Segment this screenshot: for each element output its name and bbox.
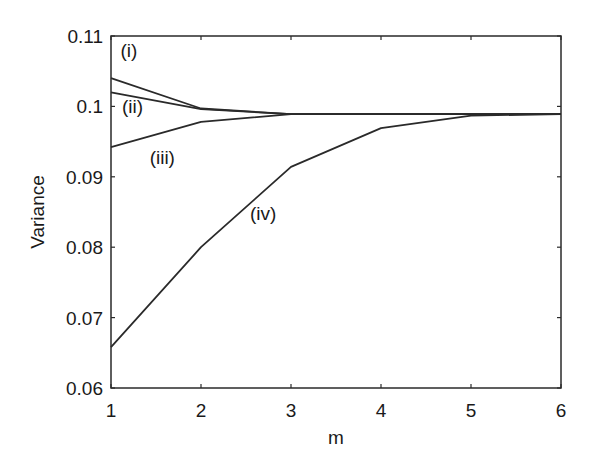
- x-tick-label: 5: [466, 400, 477, 421]
- y-tick-label: 0.11: [67, 26, 103, 47]
- y-tick-label: 0.07: [66, 308, 103, 329]
- x-tick-label: 4: [376, 400, 387, 421]
- y-tick-label: 0.09: [66, 167, 103, 188]
- y-axis-label: Variance: [27, 175, 48, 249]
- x-tick-label: 2: [196, 400, 207, 421]
- annotation-i: (i): [121, 40, 138, 61]
- axes-box: [111, 36, 561, 388]
- series-annotations: (i)(ii)(iii)(iv): [121, 40, 277, 224]
- x-tick-label: 3: [286, 400, 297, 421]
- series-lines: [111, 78, 561, 347]
- y-tick-label: 0.08: [66, 237, 103, 258]
- y-tick-label: 0.06: [66, 378, 103, 399]
- y-tick-label: 0.1: [77, 96, 103, 117]
- x-tick-label: 6: [556, 400, 567, 421]
- line-chart: 1234560.060.070.080.090.10.11 (i)(ii)(ii…: [0, 0, 594, 461]
- x-axis-label: m: [328, 427, 344, 448]
- series-line-ii: [111, 92, 561, 114]
- series-line-i: [111, 78, 561, 114]
- annotation-iii: (iii): [150, 147, 175, 168]
- series-line-iv: [111, 114, 561, 347]
- series-line-iii: [111, 114, 561, 147]
- axis-ticks: 1234560.060.070.080.090.10.11: [66, 26, 566, 421]
- annotation-ii: (ii): [122, 96, 143, 117]
- x-tick-label: 1: [106, 400, 117, 421]
- annotation-iv: (iv): [250, 203, 276, 224]
